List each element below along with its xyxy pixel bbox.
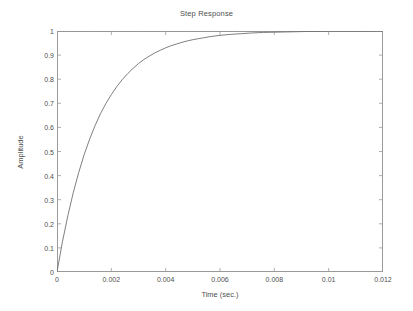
y-axis-label-container: Amplitude bbox=[14, 31, 26, 272]
y-tick-label: 0.3 bbox=[44, 196, 54, 203]
y-tick-label: 0.5 bbox=[44, 148, 54, 155]
x-tick-label: 0.01 bbox=[322, 276, 336, 283]
x-tick-label: 0.006 bbox=[211, 276, 229, 283]
y-axis-tick-labels: 00.10.20.30.40.50.60.70.80.91 bbox=[30, 31, 54, 272]
x-tick-label: 0 bbox=[55, 276, 59, 283]
y-tick-label: 0.6 bbox=[44, 124, 54, 131]
x-tick-label: 0.004 bbox=[157, 276, 175, 283]
x-axis-tick-labels: 00.0020.0040.0060.0080.010.012 bbox=[57, 276, 383, 288]
chart-title: Step Response bbox=[0, 9, 413, 18]
x-axis-label: Time (sec.) bbox=[57, 290, 383, 299]
x-tick-label: 0.008 bbox=[266, 276, 284, 283]
step-response-curve bbox=[57, 31, 383, 272]
y-tick-label: 0.7 bbox=[44, 100, 54, 107]
plot-svg bbox=[57, 31, 383, 272]
y-tick-label: 0.1 bbox=[44, 244, 54, 251]
y-axis-label: Amplitude bbox=[16, 135, 25, 168]
y-tick-label: 0.2 bbox=[44, 220, 54, 227]
y-tick-label: 0 bbox=[50, 269, 54, 276]
y-tick-label: 1 bbox=[50, 28, 54, 35]
x-tick-label: 0.002 bbox=[103, 276, 121, 283]
y-tick-label: 0.4 bbox=[44, 172, 54, 179]
plot-area bbox=[57, 31, 383, 272]
x-tick-label: 0.012 bbox=[374, 276, 392, 283]
y-tick-label: 0.9 bbox=[44, 52, 54, 59]
y-tick-label: 0.8 bbox=[44, 76, 54, 83]
figure-canvas: Step Response Amplitude 00.10.20.30.40.5… bbox=[0, 0, 413, 311]
